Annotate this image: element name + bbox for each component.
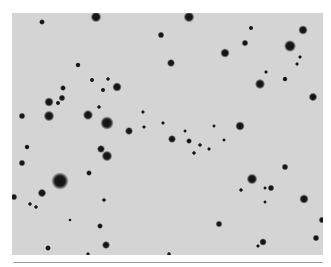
star [91,13,102,22]
star [125,127,133,135]
star [168,135,176,143]
star [216,221,223,228]
star [235,121,244,130]
star [97,105,101,109]
star [282,76,287,81]
star [222,138,226,142]
star [24,144,29,149]
star [167,59,175,67]
star [19,160,26,167]
star [284,40,296,52]
star [212,124,216,128]
star [45,245,51,251]
star-field-canvas [12,13,323,255]
star [313,235,320,242]
star [34,205,38,209]
star [142,125,146,129]
star [295,62,299,66]
star [192,151,196,155]
star [263,200,267,204]
star [259,238,267,246]
star [309,93,318,102]
star [97,223,103,229]
star [39,19,45,25]
star [242,40,249,47]
star [141,110,145,114]
star [167,252,171,255]
star [101,88,106,93]
star [86,252,90,255]
star [12,194,17,201]
star [298,55,302,59]
star [44,97,53,106]
star [207,147,211,151]
star [60,85,66,91]
star [112,82,121,91]
star [83,110,93,120]
star [28,202,32,206]
star [161,121,165,125]
star [247,174,258,185]
star [102,198,106,202]
star [102,151,113,162]
star [38,189,47,198]
star [186,138,192,144]
star [158,32,165,39]
star [198,143,202,147]
star [75,62,80,67]
star [264,70,268,74]
star [59,95,66,102]
star [256,244,260,248]
star [268,185,275,192]
star [249,26,254,31]
star [44,111,55,122]
star [299,194,308,203]
star [90,78,95,83]
star [319,217,323,224]
star [86,170,92,176]
star [51,172,69,190]
star [100,116,114,130]
star [183,129,187,133]
star [239,188,243,192]
star [298,25,307,34]
star [220,48,229,57]
star [19,113,26,120]
star [184,13,195,22]
bottom-rule-line [13,262,323,263]
star [255,79,265,89]
star [282,164,289,171]
star [263,186,267,190]
star [102,241,110,249]
star-field-image [12,13,323,255]
star [56,101,61,106]
star [68,218,72,222]
star [106,77,110,81]
